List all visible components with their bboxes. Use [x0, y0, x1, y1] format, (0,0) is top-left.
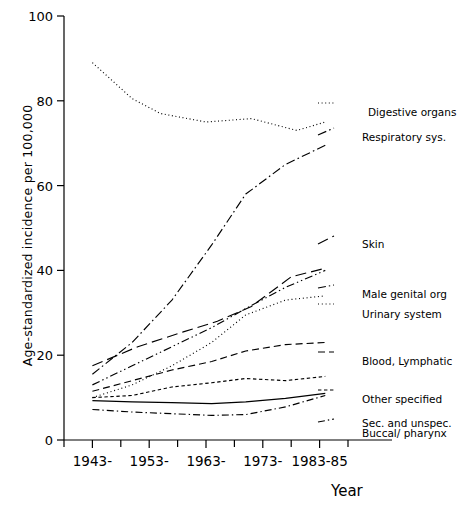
- legend-stub-2: [318, 236, 334, 244]
- axes-layer: [57, 16, 392, 448]
- y-tick-label: 40: [36, 263, 53, 278]
- y-tick-label: 0: [45, 433, 53, 448]
- series-label-buccal: Buccal/ pharynx: [362, 427, 447, 439]
- series-label-respiratory: Respiratory sys.: [362, 131, 446, 143]
- x-tick-label: 1963-: [186, 453, 225, 469]
- series-line-male-genital-org: [92, 270, 325, 384]
- x-tick-label: 1983-85: [291, 453, 347, 469]
- y-tick-label: 100: [28, 9, 53, 24]
- series-line-blood-lymphatic: [92, 342, 325, 391]
- x-tick-label: 1973-: [243, 453, 282, 469]
- legend-stub-7: [318, 419, 334, 422]
- series-label-male-genital: Male genital org: [362, 288, 447, 300]
- legend-stub-3: [318, 285, 334, 288]
- series-line-skin: [92, 268, 325, 366]
- y-tick-label: 20: [36, 348, 53, 363]
- tick-label-layer: 0204060801001943-1953-1963-1973-1983-85: [28, 9, 348, 469]
- y-tick-label: 60: [36, 179, 53, 194]
- series-line-other-specified: [92, 376, 325, 397]
- series-line-buccal-pharynx: [92, 395, 325, 415]
- chart-container: Age-standardized incidence per 100,000 0…: [0, 0, 463, 511]
- series-line-sec-and-unspec: [92, 393, 325, 403]
- series-line-digestive-organs: [92, 63, 325, 131]
- series-label-urinary: Urinary system: [362, 308, 442, 320]
- x-tick-label: 1943-: [73, 453, 112, 469]
- series-layer: [92, 63, 334, 422]
- legend-stub-1: [318, 128, 334, 135]
- series-label-skin: Skin: [362, 238, 384, 250]
- series-label-other: Other specified: [362, 393, 442, 405]
- series-label-blood: Blood, Lymphatic: [362, 355, 452, 367]
- x-tick-label: 1953-: [130, 453, 169, 469]
- y-tick-label: 80: [36, 94, 53, 109]
- x-axis-title: Year: [331, 482, 363, 500]
- series-label-digestive: Digestive organs: [368, 106, 456, 118]
- series-line-respiratory-sys: [92, 145, 325, 374]
